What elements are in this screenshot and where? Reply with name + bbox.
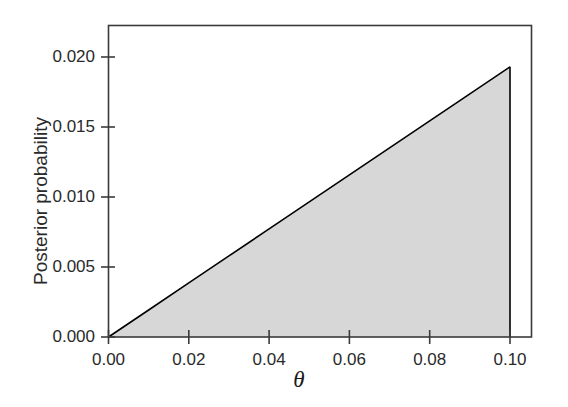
y-tick-label-0.000: 0.000: [33, 327, 95, 347]
chart-figure: 0.020 0.015 0.010 0.005 0.000 0.00 0.02 …: [0, 0, 568, 407]
x-axis-label: θ: [279, 367, 319, 393]
x-tick-label-0.10: 0.10: [480, 350, 540, 370]
y-axis-label: Posterior probability: [30, 117, 52, 285]
x-tick-label-0.02: 0.02: [159, 350, 219, 370]
x-tick-label-0.08: 0.08: [400, 350, 460, 370]
x-tick-label-0.06: 0.06: [319, 350, 379, 370]
x-tick-label-0.00: 0.00: [79, 350, 139, 370]
y-tick-label-0.020: 0.020: [33, 47, 95, 67]
